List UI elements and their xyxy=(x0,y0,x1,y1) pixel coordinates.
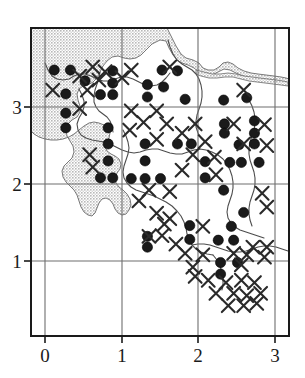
marker-filled-circle xyxy=(219,119,229,129)
marker-filled-circle xyxy=(249,139,259,149)
marker-filled-circle xyxy=(225,157,235,167)
marker-filled-circle xyxy=(155,174,165,184)
y-tick-label-2: 2 xyxy=(12,174,22,195)
x-tick-label-0: 0 xyxy=(40,345,50,366)
y-axis-tick-labels: 3 2 1 xyxy=(12,97,22,272)
x-axis-tick-labels: 0 1 2 3 xyxy=(40,345,280,366)
marker-filled-circle xyxy=(61,108,71,118)
map-canvas: 0 1 2 3 3 2 1 xyxy=(0,0,305,378)
marker-filled-circle xyxy=(186,139,196,149)
marker-filled-circle xyxy=(103,139,113,149)
marker-filled-circle xyxy=(140,156,150,166)
marker-filled-circle xyxy=(185,234,195,244)
marker-filled-circle xyxy=(236,157,246,167)
marker-filled-circle xyxy=(142,80,152,90)
marker-filled-circle xyxy=(95,90,105,100)
marker-filled-circle xyxy=(142,242,152,252)
marker-filled-circle xyxy=(158,82,168,92)
marker-filled-circle xyxy=(126,174,136,184)
marker-filled-circle xyxy=(180,94,190,104)
x-tick-label-3: 3 xyxy=(270,345,280,366)
marker-filled-circle xyxy=(185,220,195,230)
marker-filled-circle xyxy=(226,221,236,231)
marker-filled-circle xyxy=(219,95,229,105)
marker-filled-circle xyxy=(95,173,105,183)
marker-filled-circle xyxy=(213,235,223,245)
marker-filled-circle xyxy=(219,185,229,195)
marker-filled-circle xyxy=(61,89,71,99)
marker-filled-circle xyxy=(103,123,113,133)
x-tick-label-2: 2 xyxy=(193,345,203,366)
marker-filled-circle xyxy=(140,139,150,149)
x-tick-label-1: 1 xyxy=(117,345,127,366)
marker-filled-circle xyxy=(142,231,152,241)
marker-filled-circle xyxy=(142,92,152,102)
marker-filled-circle xyxy=(49,65,59,75)
y-tick-label-3: 3 xyxy=(12,97,22,118)
marker-filled-circle xyxy=(108,90,118,100)
marker-filled-circle xyxy=(108,173,118,183)
marker-filled-circle xyxy=(239,207,249,217)
marker-filled-circle xyxy=(103,156,113,166)
marker-filled-circle xyxy=(249,128,259,138)
marker-filled-circle xyxy=(215,257,225,267)
marker-filled-circle xyxy=(61,123,71,133)
marker-filled-circle xyxy=(140,174,150,184)
y-tick-label-1: 1 xyxy=(12,251,22,272)
marker-filled-circle xyxy=(254,157,264,167)
distribution-map-figure: 0 1 2 3 3 2 1 xyxy=(0,0,305,378)
marker-filled-circle xyxy=(229,235,239,245)
marker-filled-circle xyxy=(172,139,182,149)
